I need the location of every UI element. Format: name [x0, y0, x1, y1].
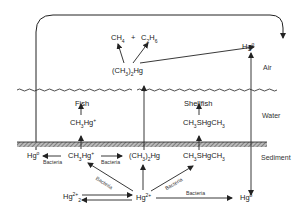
- label-ch3shgch3-sediment: CH3SHgCH3: [183, 151, 225, 160]
- label-fish: Fish: [75, 99, 89, 108]
- label-c2h6: C2H6: [141, 33, 157, 42]
- label-bacteria-methylation: Bacteria: [101, 159, 120, 165]
- label-mercurous-ion: Hg2+2: [63, 192, 81, 201]
- zone-sediment: Sediment: [261, 153, 291, 162]
- water-surface-left: [17, 89, 132, 91]
- label-dimethylmercury-sediment: (CH3)2Hg: [129, 151, 160, 160]
- label-plus: +: [131, 33, 135, 42]
- label-dimethylmercury-air: (CH3)2Hg: [112, 66, 143, 75]
- label-ch3shgch3-water: CH3SHgCH3: [183, 118, 225, 127]
- label-hg0-sediment-right: Hgo: [240, 193, 252, 202]
- label-hg0-air: Hgo: [242, 42, 254, 51]
- sediment-surface: [17, 142, 267, 147]
- label-mercuric-ion: Hg2+: [136, 193, 151, 202]
- volatilization-loop-line: [36, 15, 283, 150]
- label-bacteria-demethylation: Bacteria: [43, 159, 62, 165]
- label-ch4: CH4: [111, 33, 125, 42]
- zone-water: Water: [262, 111, 280, 120]
- label-bacteria-hg2-to-hg0: Bacteria: [186, 190, 205, 196]
- label-methylmercury-sediment: CH3Hg+: [68, 151, 94, 160]
- label-methylmercury-water: CH3Hg+: [70, 118, 96, 127]
- zone-air: Air: [263, 63, 272, 72]
- label-hg0-sediment-left: Hgo: [27, 151, 39, 160]
- label-shellfish: Shellfish: [184, 99, 212, 108]
- water-surface-right: [137, 89, 277, 91]
